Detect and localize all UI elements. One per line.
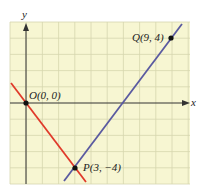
y-axis-label: y <box>21 8 27 20</box>
point-O-label: O(0, 0) <box>29 89 61 102</box>
x-axis-label: x <box>190 96 196 108</box>
point-Q-label: Q(9, 4) <box>132 31 164 44</box>
point-P <box>72 165 77 170</box>
point-O <box>23 100 28 105</box>
coordinate-diagram: x y O(0, 0) P(3, −4) Q(9, 4) <box>0 0 198 189</box>
point-Q <box>168 35 173 40</box>
plot-svg: x y O(0, 0) P(3, −4) Q(9, 4) <box>0 0 198 189</box>
point-P-label: P(3, −4) <box>82 161 121 174</box>
